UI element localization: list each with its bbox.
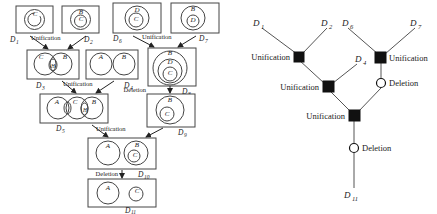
diagram-D9: B C D 9 (147, 94, 195, 138)
set-label-B: B (92, 98, 97, 106)
set-label-B: B (122, 53, 127, 61)
diagram-label-D3: D (35, 81, 42, 90)
arrow-D7-to-D8 (178, 36, 196, 47)
tree-leaf-label-D7: D (409, 18, 417, 28)
set-label-C: C (134, 15, 139, 23)
operation-label-unification-3: Unification (142, 33, 172, 40)
tree-leaf-label-D4: D (354, 54, 362, 64)
set-label-D: D (166, 58, 172, 66)
diagram-sub-D5: 5 (62, 128, 65, 134)
arrows-deletion-2: Deletion (96, 170, 122, 178)
diagram-sub-D6: 6 (119, 38, 122, 44)
diagram-D2: B C D 2 (62, 6, 99, 45)
figure-root: C D 1 B C D 2 Unification C B (0, 0, 437, 214)
tree-leaf-sub-D7: 7 (418, 23, 422, 30)
node-deletion-right[interactable] (377, 79, 386, 88)
set-label-D: D (189, 16, 195, 24)
edge-deletion-to-root (358, 88, 381, 112)
node-label-deletion-right: Deletion (389, 78, 419, 88)
edge-unification-left-mid-to-root (329, 90, 351, 112)
diagram-sub-D1: 1 (16, 39, 19, 45)
node-label-unification-right-top: Unification (389, 53, 428, 63)
arrows-deletion-1: Deletion (124, 86, 170, 93)
set-label-B: B (191, 5, 196, 13)
set-label-B: B (168, 49, 173, 57)
venn-derivation-panel: C D 1 B C D 2 Unification C B (9, 3, 219, 214)
set-label-C: C (39, 53, 44, 61)
diagram-label-D9: D (177, 128, 184, 137)
operation-label-unification-2: Unification (63, 80, 93, 87)
diagram-sub-D7: 7 (205, 38, 208, 44)
set-label-A: A (54, 98, 60, 106)
set-label-C: C (133, 151, 138, 159)
edge-D4-to-unification-left-mid (333, 64, 357, 83)
edge-unification-left-top-to-mid (299, 60, 324, 83)
set-label-C: C (33, 10, 38, 18)
diagram-label-D2: D (83, 35, 90, 44)
node-unification-left-top[interactable] (294, 52, 304, 62)
set-label-B: B (63, 53, 68, 61)
node-label-unification-left-mid: Unification (280, 82, 319, 92)
tree-leaf-label-D11: D (343, 190, 351, 200)
figure-svg: C D 1 B C D 2 Unification C B (0, 0, 437, 214)
tree-leaf-labels: D 1 D 2 D 6 D 7 D 4 D 11 (252, 18, 422, 202)
set-label-C: C (165, 110, 170, 118)
set-label-A: A (105, 184, 111, 192)
diagram-label-D11: D (124, 206, 131, 214)
diagram-box-D11 (88, 179, 156, 207)
set-label-C: C (79, 15, 84, 23)
edge-D1-to-unification-left-top (262, 28, 297, 54)
diagram-label-D10: D (137, 170, 144, 179)
diagram-D8: B D C D 8 (148, 48, 196, 97)
tree-leaf-sub-D4: 4 (363, 59, 367, 66)
node-unification-left-mid[interactable] (323, 81, 334, 92)
node-unification-root[interactable] (349, 110, 360, 121)
set-label-C: C (135, 187, 140, 195)
arrows-unification-2: Unification (62, 80, 114, 93)
tree-leaf-label-D1: D (252, 18, 260, 28)
arrow-D9-to-D10 (146, 128, 163, 137)
node-deletion-root[interactable] (350, 144, 359, 153)
diagram-label-D6: D (112, 34, 119, 43)
set-label-B: B (135, 141, 140, 149)
operation-label-unification-4: Unification (96, 125, 126, 132)
diagram-label-D1: D (9, 35, 16, 44)
arrows-unification-1: Unification (30, 34, 86, 49)
diagram-sub-D11: 11 (131, 209, 136, 214)
diagram-sub-D2: 2 (90, 39, 93, 45)
node-label-unification-left-top: Unification (251, 52, 290, 62)
diagram-D4: A B D 4 (86, 50, 138, 91)
tree-leaf-sub-D1: 1 (261, 23, 264, 30)
operation-label-deletion-2: Deletion (96, 170, 119, 177)
node-label-unification-root: Unification (306, 111, 345, 121)
tree-leaf-label-D2: D (320, 18, 328, 28)
tree-leaf-sub-D6: 6 (350, 23, 354, 30)
diagram-D11: A C D 11 (88, 179, 156, 214)
edge-D6-to-unification-right-top (348, 28, 378, 54)
set-label-C: C (168, 69, 173, 77)
set-label-A: A (98, 53, 104, 61)
tree-nodes: Unification Unification Unification Dele… (251, 52, 428, 153)
tree-leaf-sub-D2: 2 (329, 23, 333, 30)
proof-tree-panel: D 1 D 2 D 6 D 7 D 4 D 11 Unification Uni… (251, 18, 428, 202)
diagram-label-D5: D (55, 124, 62, 133)
node-unification-right-top[interactable] (375, 52, 386, 63)
tree-leaf-sub-D11: 11 (352, 195, 358, 202)
edge-D7-to-unification-right-top (385, 28, 415, 54)
set-label-A: A (105, 142, 111, 150)
arrows-unification-3: Unification (133, 33, 196, 47)
arrow-D4-to-D5 (96, 81, 114, 93)
edge-D2-to-unification-left-top (302, 28, 327, 54)
diagram-label-D7: D (198, 34, 205, 43)
diagram-box-D10 (88, 138, 156, 169)
set-label-D: D (133, 6, 139, 14)
set-label-C: C (73, 98, 78, 106)
diagram-sub-D9: 9 (184, 132, 187, 138)
operation-label-deletion-1: Deletion (124, 86, 147, 93)
set-label-B: B (168, 96, 173, 104)
tree-leaf-label-D6: D (341, 18, 349, 28)
diagram-D7: B D D 7 (171, 3, 219, 44)
operation-label-unification-1: Unification (31, 34, 61, 41)
node-label-deletion-root: Deletion (362, 143, 392, 153)
diagram-sub-D3: 3 (41, 85, 45, 91)
